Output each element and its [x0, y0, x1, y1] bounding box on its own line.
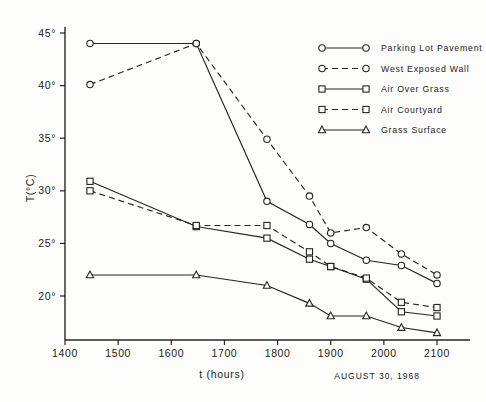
data-point-marker: [398, 299, 404, 305]
data-point-marker: [398, 262, 404, 268]
legend-item-parking-lot-pavement: Parking Lot Pavement: [319, 43, 483, 53]
data-point-marker: [434, 280, 440, 286]
data-point-marker: [328, 263, 334, 269]
legend-item-grass-surface: Grass Surface: [318, 125, 447, 135]
data-point-marker: [193, 222, 199, 228]
x-tick-label: 1600: [158, 347, 184, 359]
x-tick-label: 1400: [52, 347, 78, 359]
legend-label: Grass Surface: [381, 125, 447, 135]
legend-sample-marker: [363, 65, 369, 71]
data-point-marker: [328, 230, 334, 236]
data-point-marker: [306, 256, 312, 262]
data-point-marker: [363, 275, 369, 281]
y-axis-title: T(°C): [24, 174, 36, 203]
data-point-marker: [398, 309, 404, 315]
temperature-time-line-chart: 45°40°35°30°25°20° 140015001600170018001…: [0, 0, 486, 402]
data-point-marker: [87, 178, 93, 184]
data-point-marker: [264, 235, 270, 241]
chart-figure: 45°40°35°30°25°20° 140015001600170018001…: [0, 0, 486, 402]
data-point-marker: [193, 40, 199, 46]
series-parking-lot-pavement: [87, 40, 440, 286]
date-annotation: AUGUST 30, 1968: [334, 371, 420, 381]
data-point-marker: [363, 257, 369, 263]
chart-legend: Parking Lot PavementWest Exposed WallAir…: [318, 43, 482, 135]
y-tick-label: 20°: [38, 290, 56, 302]
y-tick-label: 30°: [38, 184, 56, 196]
series-air-courtyard: [87, 188, 440, 311]
data-point-marker: [87, 40, 93, 46]
data-point-marker: [363, 224, 369, 230]
series-grass-surface: [86, 271, 440, 336]
legend-sample-marker: [363, 86, 369, 92]
series-air-over-grass: [87, 178, 440, 319]
y-tick-label: 45°: [38, 27, 56, 39]
legend-sample-marker: [319, 45, 325, 51]
data-point-marker: [264, 198, 270, 204]
series-path: [90, 275, 437, 333]
legend-sample-marker: [363, 106, 369, 112]
y-tick-label: 40°: [38, 79, 56, 91]
series-path: [90, 44, 437, 284]
y-tick-label: 25°: [38, 237, 56, 249]
legend-sample-marker: [363, 45, 369, 51]
legend-item-air-courtyard: Air Courtyard: [319, 105, 443, 115]
legend-label: Parking Lot Pavement: [381, 43, 483, 53]
legend-sample-marker: [319, 86, 325, 92]
y-axis-ticks: 45°40°35°30°25°20°: [38, 27, 65, 302]
axes: [65, 27, 470, 340]
series-path: [90, 191, 437, 308]
legend-sample-marker: [319, 65, 325, 71]
legend-label: West Exposed Wall: [381, 64, 470, 74]
x-axis-title: t (hours): [199, 368, 244, 380]
data-point-marker: [87, 188, 93, 194]
data-point-marker: [306, 193, 312, 199]
data-point-marker: [264, 222, 270, 228]
legend-item-air-over-grass: Air Over Grass: [319, 84, 450, 94]
data-point-marker: [328, 240, 334, 246]
data-point-marker: [434, 313, 440, 319]
x-axis-ticks: 14001500160017001800190020002100: [52, 340, 450, 359]
legend-label: Air Courtyard: [381, 105, 443, 115]
data-point-marker: [434, 272, 440, 278]
legend-label: Air Over Grass: [381, 84, 450, 94]
data-point-marker: [434, 304, 440, 310]
series-west-exposed-wall: [87, 40, 440, 278]
x-tick-label: 1800: [265, 347, 291, 359]
x-tick-label: 1700: [212, 347, 238, 359]
legend-sample-marker: [319, 106, 325, 112]
data-point-marker: [306, 249, 312, 255]
data-point-marker: [306, 221, 312, 227]
x-tick-label: 2000: [371, 347, 397, 359]
x-tick-label: 1500: [105, 347, 131, 359]
data-point-marker: [264, 136, 270, 142]
x-tick-label: 2100: [424, 347, 450, 359]
y-tick-label: 35°: [38, 132, 56, 144]
legend-item-west-exposed-wall: West Exposed Wall: [319, 64, 470, 74]
data-point-marker: [87, 81, 93, 87]
x-tick-label: 1900: [318, 347, 344, 359]
data-point-marker: [398, 251, 404, 257]
